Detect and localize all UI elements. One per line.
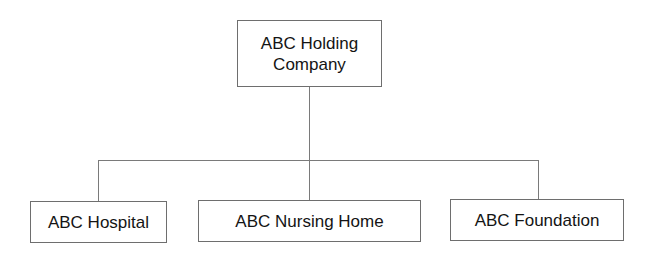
connector-left-vertical xyxy=(98,160,99,201)
node-label: ABC Hospital xyxy=(48,212,149,233)
node-label: ABC Nursing Home xyxy=(235,211,383,232)
node-label-line2: Company xyxy=(273,54,346,75)
node-abc-hospital: ABC Hospital xyxy=(30,201,167,243)
connector-horizontal-bar xyxy=(98,160,539,161)
connector-root-vertical xyxy=(309,87,310,200)
node-abc-holding-company: ABC Holding Company xyxy=(237,20,382,87)
node-label-line1: ABC Holding xyxy=(261,33,358,54)
node-label: ABC Foundation xyxy=(475,210,600,231)
connector-right-vertical xyxy=(538,160,539,199)
node-abc-nursing-home: ABC Nursing Home xyxy=(198,200,421,242)
node-abc-foundation: ABC Foundation xyxy=(450,199,624,241)
